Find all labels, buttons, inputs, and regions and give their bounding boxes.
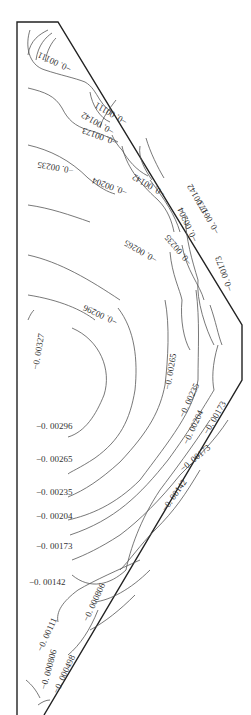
label-00111-b: −0. 00111 xyxy=(35,616,59,653)
domain-boundary xyxy=(17,22,242,715)
label-00296: −0. 00296 xyxy=(36,421,73,431)
label-00296-center: −0. 00296 xyxy=(81,303,119,328)
label-00265: −0. 00265 xyxy=(36,454,73,464)
label-00173-rightmost: −0. 00173 xyxy=(213,254,235,292)
label-00173-low: −0. 00173 xyxy=(178,442,213,473)
label-00265-center: −0. 00265 xyxy=(122,238,159,265)
label-00204-right: −0. 00204 xyxy=(175,206,200,244)
label-00327: −0. 00327 xyxy=(30,332,46,370)
label-00235: −0. 00235 xyxy=(36,487,73,497)
label-00142-mid: −0. 00142 xyxy=(130,172,167,199)
contour-plot: −0. 00327 −0. 00296 −0. 00265 −0. 00235 … xyxy=(0,0,251,715)
label-00204-upper: −0. 00204 xyxy=(90,175,128,197)
label-00173: −0. 00173 xyxy=(36,541,73,551)
label-00265-right: −0. 00265 xyxy=(162,352,178,390)
contours-top xyxy=(28,30,120,320)
label-00142: −0. 00142 xyxy=(29,577,66,587)
label-000806-a: −0. 000806 xyxy=(81,581,108,623)
label-00142-right: −0. 00142 xyxy=(185,182,212,219)
label-00204: −0. 00204 xyxy=(36,511,73,521)
label-00111-top: −0. 00111 xyxy=(36,50,73,74)
